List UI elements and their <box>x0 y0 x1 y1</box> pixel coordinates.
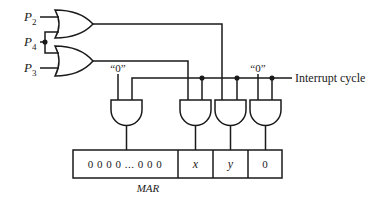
input-label-p3: P3 <box>23 60 37 78</box>
input-label-p2: P2 <box>23 9 36 27</box>
interrupt-cycle-label: Interrupt cycle <box>295 71 365 85</box>
constant-zero-right: “0” <box>250 62 265 74</box>
interrupt-cycle-bus <box>132 78 292 100</box>
and-gate-2 <box>180 100 211 126</box>
mar-cell-x: x <box>192 157 199 171</box>
mar-interrupt-circuit-diagram: P2 P4 P3 “0” “0” Interrupt cycle 0 0 0 0… <box>0 0 375 201</box>
mar-label: MAR <box>136 182 160 194</box>
or-gate-2 <box>55 46 93 76</box>
constant-zero-left: “0” <box>110 62 125 74</box>
or-gate-1 <box>55 10 93 38</box>
mar-cell-zero: 0 <box>262 158 268 170</box>
junction-and2 <box>200 76 204 80</box>
and-gate-4 <box>250 100 281 126</box>
junction-and4 <box>270 76 274 80</box>
junction-and3 <box>235 76 239 80</box>
and-gate-1 <box>111 100 142 126</box>
input-label-p4: P4 <box>23 34 37 52</box>
and-gate-3 <box>215 100 246 126</box>
mar-cell-y: y <box>227 157 234 171</box>
wire-or2-output <box>93 61 188 100</box>
mar-cell-high-bits: 0 0 0 0 ... 0 0 0 <box>88 158 163 170</box>
